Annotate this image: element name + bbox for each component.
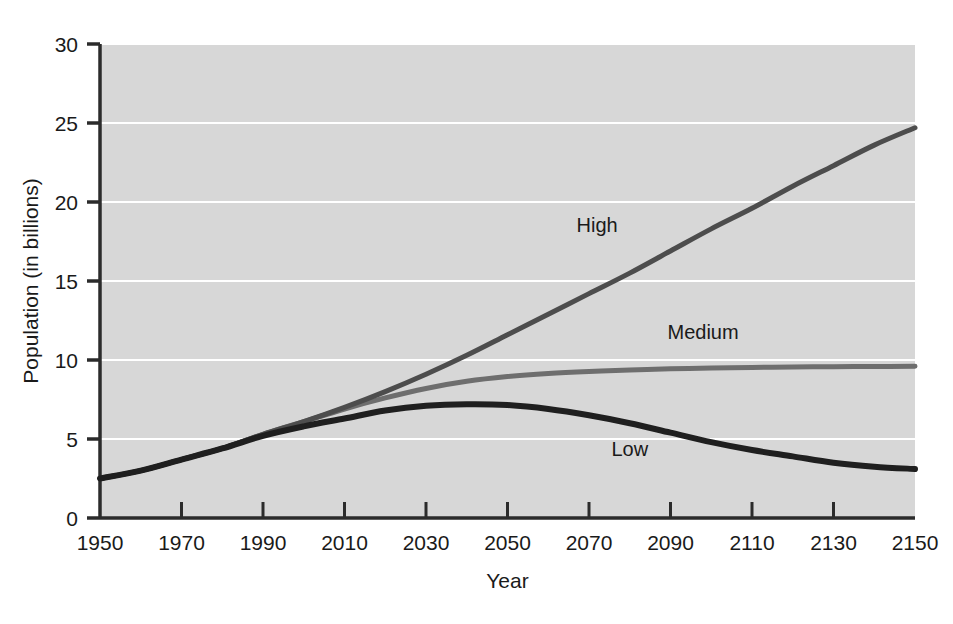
x-tick-label: 2150 <box>892 531 939 554</box>
y-tick-label: 15 <box>55 270 78 293</box>
series-label-high: High <box>577 214 618 236</box>
x-tick-label: 1970 <box>158 531 205 554</box>
series-label-low: Low <box>611 438 648 460</box>
series-label-medium: Medium <box>668 321 739 343</box>
x-tick-label: 2130 <box>810 531 857 554</box>
x-tick-label: 2090 <box>647 531 694 554</box>
x-tick-label: 2050 <box>484 531 531 554</box>
x-tick-label: 2030 <box>403 531 450 554</box>
y-axis-label: Population (in billions) <box>19 178 42 383</box>
figure-container: 1950197019902010203020502070209021102130… <box>0 0 953 624</box>
x-axis-label: Year <box>486 569 528 592</box>
x-tick-label: 2110 <box>729 531 774 554</box>
y-tick-label: 20 <box>55 191 78 214</box>
y-tick-label: 0 <box>66 507 78 530</box>
x-tick-label: 2010 <box>321 531 368 554</box>
y-tick-label: 10 <box>55 349 78 372</box>
x-tick-label: 1990 <box>240 531 287 554</box>
x-tick-label: 2070 <box>566 531 613 554</box>
population-projection-chart: 1950197019902010203020502070209021102130… <box>0 0 953 624</box>
x-tick-label: 1950 <box>77 531 124 554</box>
y-tick-label: 30 <box>55 33 78 56</box>
y-tick-label: 5 <box>66 428 78 451</box>
y-tick-label: 25 <box>55 112 78 135</box>
